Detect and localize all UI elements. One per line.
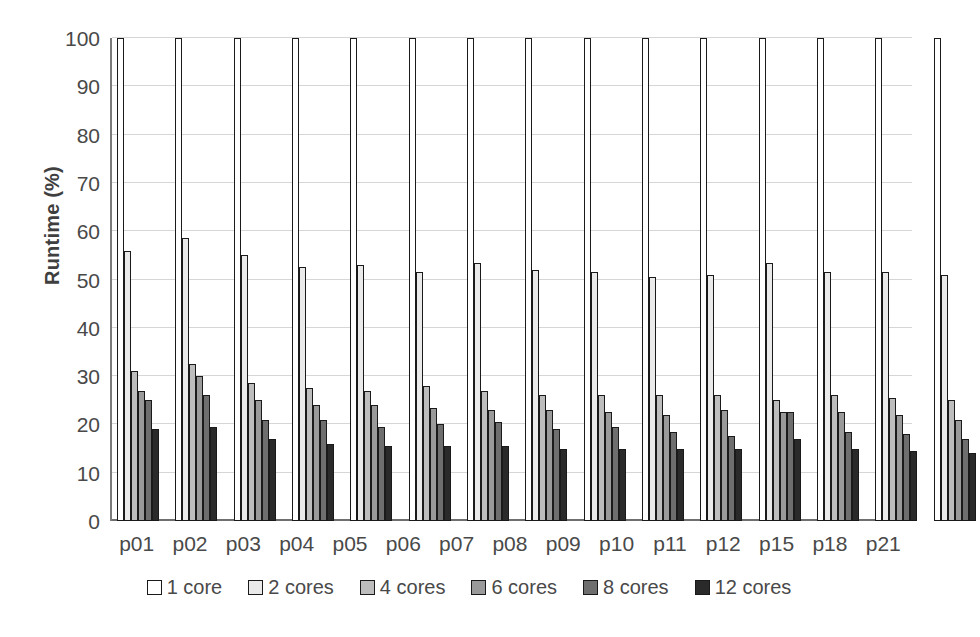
bar-group-p02: [170, 38, 228, 521]
legend-label: 12 cores: [715, 576, 792, 599]
bar-group-p08: [520, 38, 578, 521]
bar-p09-6-cores: [605, 412, 612, 521]
bar-p06-1-core: [409, 38, 416, 521]
bar-p08-4-cores: [539, 395, 546, 521]
bar-p12-6-cores: [780, 412, 787, 521]
bar-p03-4-cores: [248, 383, 255, 521]
bar-p10-6-cores: [663, 415, 670, 521]
legend-swatch-icon: [360, 580, 375, 595]
legend-label: 2 cores: [268, 576, 334, 599]
bar-p12-4-cores: [773, 400, 780, 521]
legend-label: 1 core: [167, 576, 223, 599]
bar-p03-8-cores: [262, 420, 269, 521]
bar-p12-12-cores: [794, 439, 801, 521]
bar-p05-8-cores: [378, 427, 385, 521]
bar-p21-2-cores: [941, 275, 948, 521]
y-axis-tick-label: 30: [40, 366, 100, 387]
y-axis-tick-label: 80: [40, 124, 100, 145]
x-axis-tick-label-p01: p01: [110, 528, 163, 560]
x-axis-tick-label-p02: p02: [163, 528, 216, 560]
bar-p01-6-cores: [138, 391, 145, 521]
bar-p09-4-cores: [598, 395, 605, 521]
bar-p03-2-cores: [241, 255, 248, 521]
bar-p21-8-cores: [962, 439, 969, 521]
legend-item-12-cores[interactable]: 12 cores: [695, 576, 792, 599]
legend-item-1-core[interactable]: 1 core: [147, 576, 223, 599]
bar-p21-4-cores: [948, 400, 955, 521]
bar-group-p21: [929, 38, 980, 521]
bar-group-p09: [579, 38, 637, 521]
x-axis-tick-labels: p01p02p03p04p05p06p07p08p09p10p11p12p15p…: [110, 528, 910, 560]
y-axis-tick-label: 50: [40, 269, 100, 290]
bar-p10-4-cores: [656, 395, 663, 521]
bar-p06-8-cores: [437, 424, 444, 521]
x-axis-tick-label-p08: p08: [483, 528, 536, 560]
legend-item-4-cores[interactable]: 4 cores: [360, 576, 446, 599]
legend-item-8-cores[interactable]: 8 cores: [583, 576, 669, 599]
bar-p15-2-cores: [824, 272, 831, 521]
bar-p08-6-cores: [546, 410, 553, 521]
bar-p15-4-cores: [831, 395, 838, 521]
bar-p06-6-cores: [430, 408, 437, 522]
bar-p18-1-core: [875, 38, 882, 521]
bar-p18-6-cores: [896, 415, 903, 521]
bar-p02-1-core: [175, 38, 182, 521]
bar-group-p06: [404, 38, 462, 521]
legend-swatch-icon: [248, 580, 263, 595]
bar-p04-2-cores: [299, 267, 306, 521]
bar-p04-1-core: [292, 38, 299, 521]
bar-p11-2-cores: [707, 275, 714, 521]
legend-item-6-cores[interactable]: 6 cores: [471, 576, 557, 599]
bar-p03-12-cores: [269, 439, 276, 521]
bar-p12-8-cores: [787, 412, 794, 521]
x-axis-tick-label-p11: p11: [643, 528, 696, 560]
bar-p04-12-cores: [327, 444, 334, 521]
bar-group-p10: [637, 38, 695, 521]
bar-group-p18: [870, 38, 928, 521]
x-axis-tick-label-p03: p03: [217, 528, 270, 560]
x-axis-tick-label-p06: p06: [377, 528, 430, 560]
bar-p10-8-cores: [670, 432, 677, 521]
bar-group-p07: [462, 38, 520, 521]
y-axis-tick-label: 70: [40, 172, 100, 193]
bar-group-p01: [112, 38, 170, 521]
y-axis-tick-label: 10: [40, 462, 100, 483]
x-axis-tick-label-p21: p21: [857, 528, 910, 560]
bar-p06-12-cores: [444, 446, 451, 521]
bar-p01-4-cores: [131, 371, 138, 521]
bar-p03-6-cores: [255, 400, 262, 521]
x-axis-tick-label-p05: p05: [323, 528, 376, 560]
x-axis-tick-label-p04: p04: [270, 528, 323, 560]
bar-p08-2-cores: [532, 270, 539, 521]
bar-p06-4-cores: [423, 386, 430, 521]
bar-p01-8-cores: [145, 400, 152, 521]
bar-p08-12-cores: [560, 449, 567, 521]
bar-p08-8-cores: [553, 429, 560, 521]
bar-p05-2-cores: [357, 265, 364, 521]
legend-label: 8 cores: [603, 576, 669, 599]
bar-p10-12-cores: [677, 449, 684, 521]
legend-item-2-cores[interactable]: 2 cores: [248, 576, 334, 599]
bar-p07-12-cores: [502, 446, 509, 521]
x-axis-tick-label-p09: p09: [537, 528, 590, 560]
bar-p15-8-cores: [845, 432, 852, 521]
bar-p07-2-cores: [474, 263, 481, 521]
bar-group-p12: [754, 38, 812, 521]
bar-p04-6-cores: [313, 405, 320, 521]
bar-p10-2-cores: [649, 277, 656, 521]
bar-p03-1-core: [234, 38, 241, 521]
x-axis-tick-label-p18: p18: [803, 528, 856, 560]
bar-p11-4-cores: [714, 395, 721, 521]
bar-p05-4-cores: [364, 391, 371, 521]
x-axis-tick-label-p12: p12: [697, 528, 750, 560]
bar-p06-2-cores: [416, 272, 423, 521]
bar-p12-2-cores: [766, 263, 773, 521]
bar-p04-4-cores: [306, 388, 313, 521]
bar-p12-1-core: [759, 38, 766, 521]
legend-label: 6 cores: [491, 576, 557, 599]
y-axis-tick-label: 60: [40, 221, 100, 242]
bar-p02-4-cores: [189, 364, 196, 521]
y-axis-tick-labels: 0102030405060708090100: [40, 0, 100, 637]
bar-p21-12-cores: [969, 453, 976, 521]
